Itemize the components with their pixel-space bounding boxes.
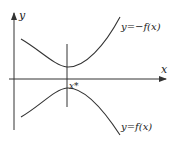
y-axis-label: y xyxy=(18,9,26,22)
curve-f-label: y=f(x) xyxy=(120,121,152,132)
diagram-canvas: y x x* y=−f(x) y=f(x) xyxy=(0,0,172,144)
x-star-label: x* xyxy=(69,81,79,91)
curve-f xyxy=(21,88,120,135)
x-axis-label: x xyxy=(161,63,168,76)
curve-neg-f xyxy=(21,17,120,67)
curve-neg-f-label: y=−f(x) xyxy=(120,21,161,32)
